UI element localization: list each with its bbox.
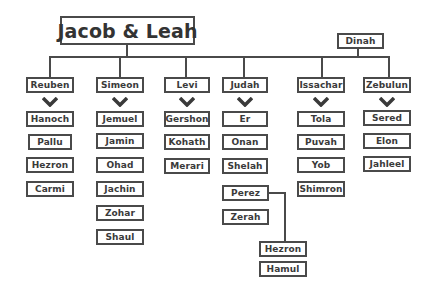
node-puvah: Puvah (297, 134, 345, 150)
chevron-down-icon (313, 97, 329, 107)
node-jamin: Jamin (96, 133, 144, 149)
root-node-jacob-leah: Jacob & Leah (60, 16, 195, 45)
node-zebulun: Zebulun (363, 77, 411, 93)
node-gershon: Gershon (164, 111, 210, 127)
zebulun-connector (388, 56, 390, 77)
node-shimron: Shimron (297, 181, 345, 197)
node-hanoch: Hanoch (26, 111, 74, 127)
node-kohath: Kohath (164, 134, 210, 150)
chevron-down-icon (179, 97, 195, 107)
node-simeon: Simeon (96, 77, 144, 93)
chevron-down-icon (379, 97, 395, 107)
node-merari: Merari (164, 158, 210, 174)
node-shaul: Shaul (96, 229, 144, 245)
node-jachin: Jachin (96, 181, 144, 197)
node-issachar: Issachar (297, 77, 345, 93)
chevron-down-icon (112, 97, 128, 107)
node-jemuel: Jemuel (96, 111, 144, 127)
node-onan: Onan (222, 134, 268, 150)
levi-connector (185, 56, 187, 77)
node-carmi: Carmi (26, 181, 74, 197)
node-elon: Elon (363, 133, 411, 149)
perez-connector-horizontal (268, 192, 285, 194)
simeon-connector (119, 56, 121, 77)
perez-connector-vertical (284, 192, 286, 241)
node-sered: Sered (363, 110, 411, 126)
dinah-connector (357, 48, 359, 57)
node-shelah: Shelah (222, 158, 268, 174)
node-er: Er (222, 111, 268, 127)
node-tola: Tola (297, 111, 345, 127)
node-hezron-perez: Hezron (259, 241, 307, 257)
node-hezron-reuben: Hezron (26, 157, 74, 173)
node-reuben: Reuben (26, 77, 74, 93)
node-zerah: Zerah (222, 209, 269, 225)
node-judah: Judah (222, 77, 268, 93)
main-horizontal-line (49, 56, 390, 58)
node-yob: Yob (297, 157, 345, 173)
node-pallu: Pallu (28, 134, 72, 150)
node-levi: Levi (164, 77, 210, 93)
node-jahleel: Jahleel (363, 156, 411, 172)
node-ohad: Ohad (96, 157, 144, 173)
chevron-down-icon (42, 97, 58, 107)
node-perez: Perez (222, 185, 269, 201)
issachar-connector (321, 56, 323, 77)
node-dinah: Dinah (337, 33, 384, 49)
chevron-down-icon (237, 97, 253, 107)
judah-connector (243, 56, 245, 77)
node-zohar: Zohar (96, 205, 144, 221)
reuben-connector (49, 56, 51, 77)
node-hamul: Hamul (259, 261, 307, 277)
